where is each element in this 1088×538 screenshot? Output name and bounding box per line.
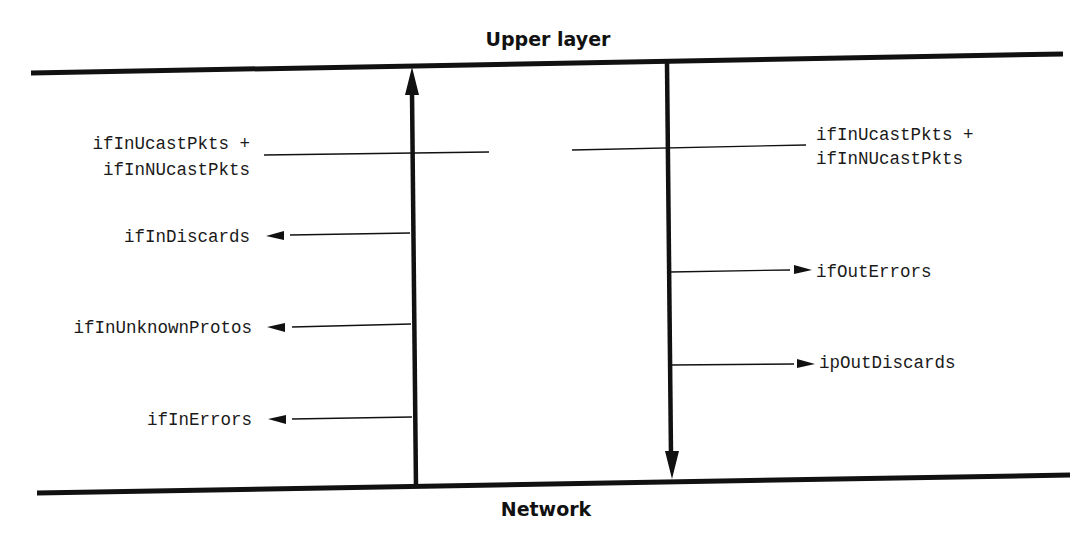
arrowhead-right-icon — [797, 359, 815, 368]
in-delivered-counter-line1: ifInUcastPkts + — [92, 134, 250, 154]
network-label: Network — [501, 498, 592, 520]
in-unknown-protos-arrow — [267, 323, 411, 332]
arrowhead-left-icon — [267, 323, 285, 332]
arrowhead-down-icon — [665, 451, 679, 479]
out-requested-counter-line2: ifInNUcastPkts — [816, 149, 963, 169]
upper-layer-boundary — [31, 54, 1063, 73]
upper-layer-label: Upper layer — [486, 28, 612, 50]
arrowhead-right-icon — [794, 265, 812, 274]
in-unknown-protos-counter: ifInUnknownProtos — [73, 318, 252, 338]
arrowhead-up-icon — [405, 67, 419, 95]
out-errors-arrow — [670, 265, 812, 274]
in-errors-counter: ifInErrors — [147, 410, 252, 430]
in-delivered-counter-line2: ifInNUcastPkts — [103, 160, 250, 180]
in-errors-arrow — [268, 415, 412, 424]
delivered-level-line-left — [264, 152, 489, 155]
incoming-up-arrow — [405, 67, 419, 488]
out-discards-counter: ipOutDiscards — [819, 353, 956, 373]
interface-counters-diagram: Upper layer Network ifInUcastPkts + ifIn… — [0, 0, 1088, 538]
arrowhead-left-icon — [266, 231, 284, 240]
requested-level-line-right — [572, 145, 806, 150]
out-errors-counter: ifOutErrors — [816, 262, 932, 282]
in-discards-counter: ifInDiscards — [124, 227, 250, 247]
network-boundary — [37, 475, 1070, 493]
out-discards-arrow — [671, 359, 815, 368]
outgoing-down-arrow — [665, 63, 679, 479]
arrowhead-left-icon — [268, 415, 286, 424]
out-requested-counter-line1: ifInUcastPkts + — [816, 125, 974, 145]
in-discards-arrow — [266, 231, 410, 240]
